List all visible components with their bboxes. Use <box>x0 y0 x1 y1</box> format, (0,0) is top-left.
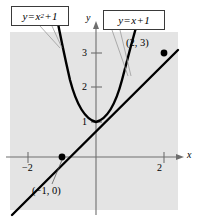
graph-plot <box>0 0 200 221</box>
callout-parabola-plus: + <box>44 11 52 22</box>
x-tick-label-2: 2 <box>157 163 162 173</box>
y-axis-label: y <box>86 13 90 23</box>
y-tick-label-3: 3 <box>82 48 87 58</box>
x-axis-arrow <box>176 154 184 160</box>
y-axis-arrow <box>93 21 99 29</box>
y-tick-label-1: 1 <box>82 117 87 127</box>
intersection-dot-lower <box>59 154 66 161</box>
x-tick-label-minus-2: −2 <box>22 163 33 173</box>
callout-line-equation: y=x+1 <box>103 10 165 30</box>
callout-parabola-constant: 1 <box>52 11 58 22</box>
x-axis-label: x <box>187 150 191 160</box>
point-label-intersection-upper: (2, 3) <box>126 38 149 49</box>
callout-parabola-op: = <box>27 11 35 22</box>
figure-container: y=x2+1 y=x+1 y x 3 2 1 −2 2 (2, 3) (−1, … <box>0 0 200 221</box>
y-tick-label-2: 2 <box>82 82 87 92</box>
intersection-dot-upper <box>161 50 168 57</box>
callout-parabola-equation: y=x2+1 <box>11 6 69 26</box>
callout-line-plus: + <box>136 15 144 26</box>
callout-line-constant: 1 <box>144 15 150 26</box>
point-label-intersection-lower: (−1, 0) <box>32 186 61 197</box>
